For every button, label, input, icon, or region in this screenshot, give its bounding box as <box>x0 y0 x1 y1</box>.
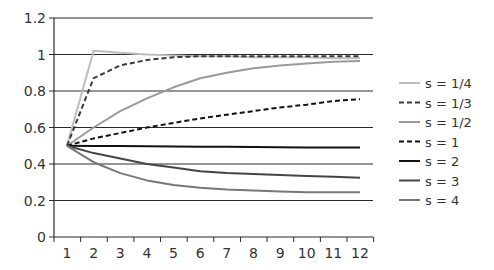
y-tick-label: 1.2 <box>24 10 46 26</box>
series-line-5 <box>67 146 360 148</box>
y-tick-label: 0.4 <box>24 156 46 172</box>
x-tick-label: 5 <box>169 245 178 261</box>
plot-series <box>67 51 360 193</box>
x-tick-label: 2 <box>89 245 98 261</box>
x-axis-tick-labels: 123456789101112 <box>63 245 369 261</box>
y-tick-label: 0.6 <box>24 120 46 136</box>
legend-label: s = 2 <box>425 154 459 169</box>
x-tick-label: 8 <box>249 245 258 261</box>
y-tick-label: 0.8 <box>24 83 46 99</box>
x-tick-label: 6 <box>196 245 205 261</box>
x-tick-label: 3 <box>116 245 125 261</box>
line-chart: 00.20.40.60.811.2 123456789101112 s = 1/… <box>0 0 494 270</box>
y-tick-label: 1 <box>37 47 46 63</box>
y-tick-label: 0 <box>37 229 46 245</box>
legend-label: s = 4 <box>425 193 459 208</box>
legend: s = 1/4s = 1/3s = 1/2s = 1s = 2s = 3s = … <box>399 76 472 208</box>
legend-label: s = 1 <box>425 135 459 150</box>
series-line-7 <box>67 146 360 193</box>
series-line-6 <box>67 146 360 178</box>
legend-label: s = 1/2 <box>425 115 472 130</box>
x-tick-label: 9 <box>276 245 285 261</box>
series-line-2 <box>67 56 360 146</box>
y-tick-label: 0.2 <box>24 193 46 209</box>
x-tick-label: 10 <box>298 245 316 261</box>
legend-label: s = 1/4 <box>425 76 472 91</box>
x-tick-label: 7 <box>222 245 231 261</box>
y-axis-tick-labels: 00.20.40.60.811.2 <box>24 10 46 245</box>
legend-label: s = 1/3 <box>425 96 472 111</box>
series-line-4 <box>67 99 360 146</box>
x-tick-label: 4 <box>142 245 151 261</box>
x-tick-label: 11 <box>324 245 342 261</box>
legend-label: s = 3 <box>425 174 459 189</box>
series-line-1 <box>67 51 360 146</box>
x-tick-label: 1 <box>63 245 72 261</box>
x-tick-label: 12 <box>351 245 369 261</box>
